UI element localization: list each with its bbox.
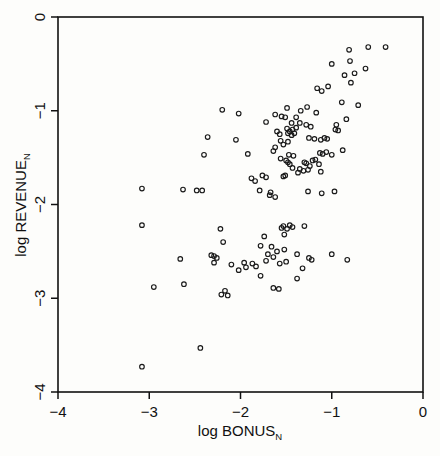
data-point [236,268,241,273]
y-tick-label: −2 [31,196,48,213]
data-point [285,126,290,131]
data-point [285,227,290,232]
data-point [225,293,230,298]
data-point [352,71,357,76]
data-point [152,285,157,290]
data-point [205,135,210,140]
data-point [220,108,225,113]
data-point [140,223,145,228]
data-point [218,227,223,232]
data-point [140,364,145,369]
data-point [264,120,269,125]
data-point [269,244,274,249]
data-point [317,162,322,167]
data-point [258,243,263,248]
data-point [312,137,317,142]
data-point [344,117,349,122]
data-point [339,100,344,105]
data-point [294,115,299,120]
x-axis-tick-labels: −4−3−2−10 [49,403,427,420]
data-point-group [140,45,388,369]
data-point [314,110,319,115]
data-point [295,252,300,257]
data-point [307,136,312,141]
data-point [250,261,255,266]
data-point [278,156,283,161]
data-point [236,111,241,116]
data-point [244,265,249,270]
data-point [277,261,282,266]
data-point [356,103,361,108]
x-axis-title: log BONUSN [198,422,283,442]
data-point [223,288,228,293]
data-point [140,186,145,191]
data-point [242,260,247,265]
data-point [363,66,368,71]
x-axis-title-text: log BONUS [198,422,276,439]
data-point [198,346,203,351]
data-point [275,129,280,134]
data-point [289,121,294,126]
data-point [383,45,388,50]
data-point [221,240,226,245]
x-tick-label: 0 [419,403,427,420]
data-point [329,153,334,158]
data-point [278,138,283,143]
data-point [282,247,287,252]
data-point [329,62,334,67]
y-axis-title: log REVENUEN [12,153,32,257]
data-point [275,249,280,254]
data-point [298,121,303,126]
data-point [194,188,199,193]
data-point [212,260,217,265]
svg-text:log REVENUEN: log REVENUEN [12,153,32,257]
data-point [304,123,309,128]
plot-canvas: −4−3−2−10 −4−3−2−10 log BONUSN log REVEN… [0,0,440,456]
x-tick-label: −3 [141,403,158,420]
x-tick-label: −4 [49,403,66,420]
x-tick-label: −1 [323,403,340,420]
data-point [315,86,320,91]
y-axis-ticks [51,17,58,392]
data-point [257,188,262,193]
scatter-plot-figure: −4−3−2−10 −4−3−2−10 log BONUSN log REVEN… [0,0,440,456]
data-point [319,89,324,94]
data-point [258,273,263,278]
data-point [334,123,339,128]
y-tick-label: −1 [31,102,48,119]
data-point [291,153,296,158]
data-point [347,48,352,53]
data-point [308,124,313,129]
data-point [284,259,289,264]
y-tick-label: −3 [31,290,48,307]
y-axis-title-text: log REVENUE [12,160,29,257]
data-point [277,287,282,292]
data-point [234,138,239,143]
data-point [200,188,205,193]
y-tick-label: −4 [31,383,48,400]
x-axis-ticks [58,392,423,399]
data-point [267,193,272,198]
data-point [319,191,324,196]
svg-text:log BONUSN: log BONUSN [198,422,283,442]
data-point [178,257,183,262]
y-tick-label: 0 [31,13,48,21]
x-axis-title-subscript: N [275,431,282,442]
data-point [287,153,292,158]
data-point [219,292,224,297]
data-point [262,234,267,239]
x-tick-label: −2 [232,403,249,420]
data-point [345,258,350,263]
data-point [306,189,311,194]
data-point [329,252,334,257]
data-point [181,187,186,192]
data-point [342,73,347,78]
data-point [300,266,305,271]
data-point [266,252,271,257]
data-point [298,108,303,113]
data-point [305,105,310,110]
data-point [332,189,337,194]
data-point [326,84,331,89]
data-point [253,179,258,184]
data-point [302,224,307,229]
